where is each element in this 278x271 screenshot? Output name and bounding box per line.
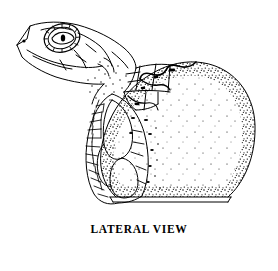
nostril (22, 39, 25, 42)
ear-region (104, 58, 114, 72)
head-scute-2 (78, 33, 100, 46)
pupil (61, 34, 65, 41)
neck-front (92, 84, 104, 104)
head-scute-6 (74, 50, 86, 68)
head-lower-outline (17, 45, 104, 84)
figure-caption: LATERAL VIEW (0, 222, 278, 236)
head-scute-7 (100, 46, 112, 66)
egg-shell (95, 55, 265, 205)
figure-container: LATERAL VIEW (0, 0, 278, 271)
drawing-ink (17, 20, 265, 205)
eye (41, 20, 83, 56)
jaw-line-lower (33, 56, 72, 69)
head (17, 20, 136, 84)
carapace-seam-4 (126, 72, 140, 74)
head-scute-3 (86, 44, 96, 52)
head-scute-8 (112, 52, 128, 68)
